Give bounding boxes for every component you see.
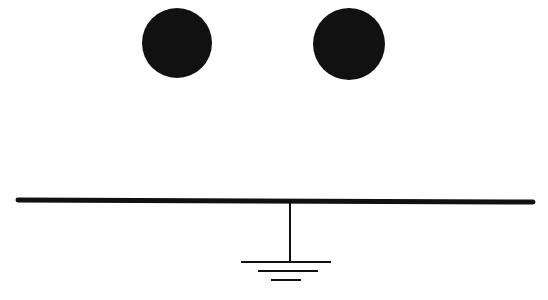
left-sphere bbox=[142, 8, 212, 78]
spheres-group bbox=[142, 8, 385, 80]
right-sphere bbox=[313, 8, 385, 80]
conducting-plate bbox=[18, 200, 533, 202]
ground-symbol-icon bbox=[241, 262, 331, 280]
diagram-canvas bbox=[0, 0, 548, 300]
